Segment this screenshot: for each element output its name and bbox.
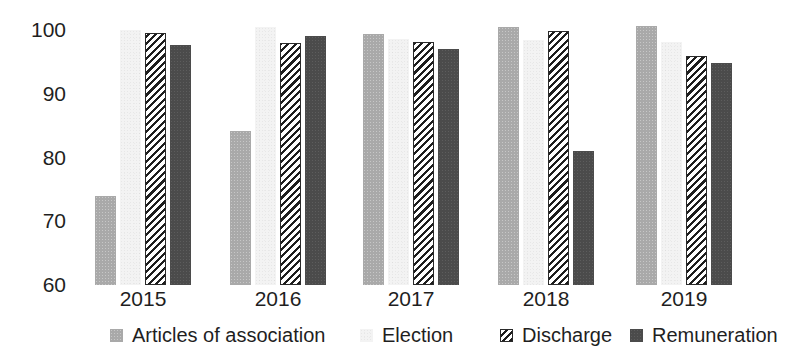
bar-discharge-2015[interactable] — [145, 33, 166, 285]
bar-remuneration-2019[interactable] — [711, 63, 732, 285]
bar-election-2018[interactable] — [523, 40, 544, 285]
y-axis: 60708090100 — [0, 0, 74, 300]
chart-legend: Articles of associationElectionDischarge… — [0, 322, 789, 352]
bar-remuneration-2017[interactable] — [438, 49, 459, 286]
legend-item-discharge[interactable]: Discharge — [500, 322, 612, 348]
bar-remuneration-2018[interactable] — [573, 151, 594, 285]
bar-group-2018 — [498, 14, 594, 285]
bar-group-2015 — [95, 14, 191, 285]
bar-election-2019[interactable] — [661, 42, 682, 285]
y-tick-label-100: 100 — [31, 19, 66, 40]
bar-discharge-2017[interactable] — [413, 42, 434, 285]
bar-discharge-2019[interactable] — [686, 56, 707, 285]
bar-remuneration-2015[interactable] — [170, 45, 191, 285]
bar-chart: 60708090100 20152016201720182019 Article… — [0, 0, 789, 360]
legend-swatch-articles-of-association — [110, 329, 123, 342]
legend-item-articles-of-association[interactable]: Articles of association — [110, 322, 325, 348]
bar-election-2017[interactable] — [388, 39, 409, 285]
x-tick-label-2017: 2017 — [381, 287, 441, 311]
bar-group-2016 — [230, 14, 326, 285]
x-tick-label-2018: 2018 — [516, 287, 576, 311]
legend-swatch-discharge — [500, 329, 513, 342]
legend-swatch-election — [360, 329, 373, 342]
y-tick-label-80: 80 — [43, 147, 66, 168]
bar-election-2016[interactable] — [255, 27, 276, 285]
plot-area — [74, 14, 784, 285]
y-tick-label-60: 60 — [43, 274, 66, 295]
legend-label-articles-of-association: Articles of association — [132, 324, 325, 346]
bar-articles-of-association-2018[interactable] — [498, 27, 519, 285]
bar-articles-of-association-2019[interactable] — [636, 26, 657, 285]
bar-election-2015[interactable] — [120, 30, 141, 285]
x-tick-label-2019: 2019 — [654, 287, 714, 311]
x-tick-label-2015: 2015 — [113, 287, 173, 311]
legend-item-remuneration[interactable]: Remuneration — [630, 322, 778, 348]
bar-discharge-2016[interactable] — [280, 43, 301, 285]
bar-articles-of-association-2017[interactable] — [363, 34, 384, 285]
x-axis: 20152016201720182019 — [74, 287, 784, 317]
legend-label-discharge: Discharge — [522, 324, 612, 346]
legend-swatch-remuneration — [630, 329, 643, 342]
legend-item-election[interactable]: Election — [360, 322, 453, 348]
bar-articles-of-association-2016[interactable] — [230, 131, 251, 285]
legend-label-election: Election — [382, 324, 453, 346]
bar-group-2017 — [363, 14, 459, 285]
y-tick-label-70: 70 — [43, 210, 66, 231]
x-tick-label-2016: 2016 — [248, 287, 308, 311]
bar-articles-of-association-2015[interactable] — [95, 196, 116, 285]
bar-remuneration-2016[interactable] — [305, 36, 326, 285]
legend-label-remuneration: Remuneration — [652, 324, 778, 346]
bar-group-2019 — [636, 14, 732, 285]
bar-discharge-2018[interactable] — [548, 31, 569, 285]
y-tick-label-90: 90 — [43, 83, 66, 104]
